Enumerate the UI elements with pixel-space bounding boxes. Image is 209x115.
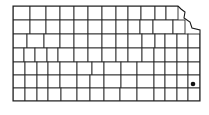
county bbox=[37, 62, 48, 75]
county bbox=[188, 34, 200, 48]
county bbox=[142, 48, 154, 62]
county bbox=[25, 62, 37, 75]
county bbox=[90, 75, 104, 88]
county bbox=[154, 75, 165, 88]
county bbox=[60, 75, 77, 88]
county bbox=[177, 75, 188, 88]
county bbox=[44, 34, 60, 48]
occurrence-dot-marker bbox=[191, 82, 196, 87]
county bbox=[104, 88, 120, 101]
county bbox=[128, 6, 141, 20]
county bbox=[30, 20, 46, 34]
county bbox=[177, 62, 188, 75]
county bbox=[121, 62, 137, 75]
county bbox=[77, 75, 90, 88]
county bbox=[137, 88, 154, 101]
county bbox=[141, 6, 155, 20]
county bbox=[60, 62, 77, 75]
county bbox=[165, 48, 177, 62]
county bbox=[128, 20, 140, 34]
county bbox=[116, 20, 128, 34]
county bbox=[60, 34, 74, 48]
county bbox=[90, 88, 104, 101]
county bbox=[88, 34, 102, 48]
county bbox=[60, 6, 74, 20]
county bbox=[166, 6, 178, 20]
county bbox=[24, 48, 35, 62]
county bbox=[142, 34, 155, 48]
county bbox=[102, 34, 116, 48]
county bbox=[116, 48, 128, 62]
county bbox=[27, 34, 44, 48]
county bbox=[74, 6, 88, 20]
county bbox=[154, 48, 165, 62]
county bbox=[88, 48, 102, 62]
county bbox=[88, 20, 102, 34]
county bbox=[165, 34, 177, 48]
county bbox=[13, 6, 30, 20]
county bbox=[188, 48, 200, 62]
county bbox=[128, 34, 142, 48]
county bbox=[35, 48, 47, 62]
county bbox=[48, 88, 61, 101]
county bbox=[137, 75, 154, 88]
county bbox=[25, 75, 37, 88]
county bbox=[13, 34, 27, 48]
county bbox=[165, 88, 177, 101]
county bbox=[92, 62, 104, 75]
county bbox=[60, 20, 74, 34]
county bbox=[46, 6, 60, 20]
county bbox=[61, 88, 77, 101]
county bbox=[77, 62, 92, 75]
county bbox=[165, 75, 177, 88]
county bbox=[48, 62, 60, 75]
county bbox=[116, 6, 128, 20]
county bbox=[188, 88, 200, 101]
county bbox=[104, 62, 121, 75]
county-grid bbox=[13, 6, 200, 101]
county bbox=[74, 20, 88, 34]
county bbox=[47, 48, 58, 62]
county bbox=[155, 34, 165, 48]
county bbox=[48, 75, 60, 88]
county bbox=[137, 62, 154, 75]
kansas-county-map bbox=[0, 0, 209, 115]
county bbox=[173, 20, 185, 34]
county bbox=[13, 75, 25, 88]
county bbox=[102, 20, 116, 34]
county bbox=[104, 75, 121, 88]
county bbox=[154, 88, 165, 101]
county bbox=[128, 48, 142, 62]
county bbox=[74, 34, 88, 48]
county bbox=[102, 48, 116, 62]
county bbox=[155, 6, 166, 20]
county bbox=[177, 48, 188, 62]
county bbox=[102, 6, 116, 20]
marker-layer bbox=[191, 82, 196, 87]
county bbox=[88, 6, 102, 20]
county bbox=[120, 88, 137, 101]
county bbox=[154, 62, 165, 75]
county bbox=[58, 48, 74, 62]
county bbox=[116, 34, 128, 48]
county bbox=[121, 75, 137, 88]
county bbox=[177, 34, 188, 48]
county bbox=[177, 88, 188, 101]
county bbox=[37, 88, 48, 101]
county bbox=[165, 62, 177, 75]
county bbox=[13, 88, 25, 101]
county bbox=[13, 20, 30, 34]
county bbox=[74, 48, 88, 62]
county bbox=[153, 20, 173, 34]
county bbox=[77, 88, 90, 101]
county bbox=[140, 20, 153, 34]
county bbox=[30, 6, 46, 20]
county bbox=[37, 75, 48, 88]
county bbox=[25, 88, 37, 101]
county bbox=[13, 62, 25, 75]
county bbox=[46, 20, 60, 34]
county bbox=[188, 62, 200, 75]
county bbox=[13, 48, 24, 62]
